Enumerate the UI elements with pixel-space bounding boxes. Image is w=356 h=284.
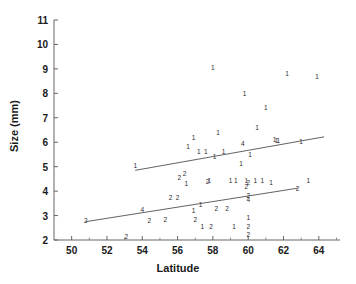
data-point: 2 (169, 195, 173, 202)
data-point: 1 (243, 91, 247, 98)
data-point: 2 (225, 205, 229, 212)
data-point: 1 (229, 178, 233, 185)
data-point: 1 (255, 125, 259, 132)
data-point: 2 (246, 180, 250, 187)
x-tick-label: 58 (207, 245, 218, 256)
data-point: 2 (163, 217, 167, 224)
y-tick-label: 5 (28, 161, 48, 172)
data-point: 2 (84, 218, 88, 225)
x-tick-label: 60 (243, 245, 254, 256)
y-tick-label: 4 (28, 186, 48, 197)
data-point: 1 (208, 178, 212, 185)
data-point: 2 (193, 217, 197, 224)
data-point: 1 (200, 224, 204, 231)
data-point: 1 (285, 71, 289, 78)
data-point: 1 (213, 154, 217, 161)
x-tick-label: 54 (137, 245, 148, 256)
data-point: 2 (246, 232, 250, 239)
y-tick-label: 3 (28, 210, 48, 221)
data-point: 2 (296, 185, 300, 192)
x-tick-label: 50 (66, 245, 77, 256)
data-point: 1 (306, 178, 310, 185)
data-point: 1 (192, 208, 196, 215)
data-point: 1 (269, 180, 273, 187)
data-point: 2 (176, 195, 180, 202)
data-point: 1 (246, 215, 250, 222)
data-point: 1 (234, 178, 238, 185)
data-point: 1 (239, 161, 243, 168)
y-tick-label: 9 (28, 63, 48, 74)
data-point: 2 (215, 205, 219, 212)
scatter-plot-figure: 2214222222111121111212112112111141122421… (0, 0, 356, 284)
data-point: 2 (178, 175, 182, 182)
data-point: 1 (204, 149, 208, 156)
data-point: 1 (197, 148, 201, 155)
y-tick-label: 6 (28, 137, 48, 148)
data-point: 1 (299, 138, 303, 145)
x-axis-label: Latitude (0, 262, 356, 274)
data-point: 1 (253, 178, 257, 185)
y-tick-label: 8 (28, 88, 48, 99)
data-point: 1 (315, 73, 319, 80)
data-point: 2 (209, 224, 213, 231)
y-tick-label: 11 (28, 15, 48, 26)
x-tick-label: 62 (278, 245, 289, 256)
data-point: 2 (125, 234, 129, 241)
data-point: 1 (186, 144, 190, 151)
data-point: 4 (140, 207, 144, 214)
data-point: 1 (133, 163, 137, 170)
data-point: 1 (216, 130, 220, 137)
y-tick-label: 10 (28, 39, 48, 50)
data-point: 1 (185, 181, 189, 188)
data-point: 1 (232, 224, 236, 231)
x-tick-label: 56 (172, 245, 183, 256)
data-point: 4 (246, 197, 250, 204)
data-point: 1 (211, 65, 215, 72)
data-point: 1 (192, 135, 196, 142)
data-point: 2 (183, 171, 187, 178)
x-tick-label: 64 (313, 245, 324, 256)
upper-fit-line (135, 137, 324, 170)
y-axis-label: Size (mm) (8, 86, 20, 166)
y-tick-label: 2 (28, 235, 48, 246)
data-point: 1 (264, 104, 268, 111)
x-tick-label: 52 (101, 245, 112, 256)
data-point: 1 (222, 149, 226, 156)
data-point: 1 (276, 138, 280, 145)
axis-lines (54, 20, 340, 240)
data-point: 1 (261, 178, 265, 185)
data-point: 4 (241, 141, 245, 148)
y-tick-label: 7 (28, 112, 48, 123)
data-point: 1 (248, 152, 252, 159)
data-point: 2 (246, 224, 250, 231)
lower-fit-line (86, 188, 298, 221)
data-point: 2 (148, 218, 152, 225)
data-point: 1 (199, 202, 203, 209)
